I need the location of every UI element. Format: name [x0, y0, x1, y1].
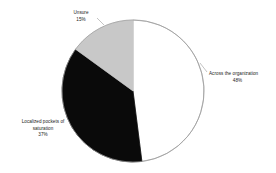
pie-label-across-value: 48%: [209, 78, 266, 85]
pie-label-across-the-organization: Across the organization 48%: [209, 71, 266, 84]
pie-chart-svg: [0, 0, 276, 173]
pie-label-unsure-value: 15%: [58, 17, 104, 24]
pie-label-localized-value: 37%: [8, 132, 78, 139]
pie-chart-figure: Across the organization 48% Unsure 15% L…: [0, 0, 276, 173]
pie-label-unsure: Unsure 15%: [58, 10, 104, 23]
pie-label-localized-pockets-of-saturation: Localized pockets of saturation 37%: [8, 119, 78, 139]
pie-label-across-text: Across the organization: [209, 71, 266, 78]
pie-slice-across-the-organization[interactable]: [133, 20, 204, 161]
